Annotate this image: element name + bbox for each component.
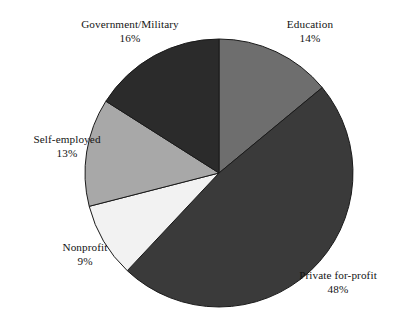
pie-label-government-military: Government/Military 16% bbox=[54, 18, 206, 45]
pie-label-self-employed-value: 13% bbox=[8, 147, 126, 161]
pie-label-private-for-profit-name: Private for-profit bbox=[272, 269, 404, 283]
pie-label-nonprofit: Nonprofit 9% bbox=[30, 241, 140, 268]
pie-label-education-value: 14% bbox=[249, 32, 371, 46]
pie-label-government-military-name: Government/Military bbox=[54, 18, 206, 32]
pie-label-private-for-profit: Private for-profit 48% bbox=[272, 269, 404, 296]
pie-label-nonprofit-value: 9% bbox=[30, 255, 140, 269]
pie-label-private-for-profit-value: 48% bbox=[272, 283, 404, 297]
pie-label-self-employed-name: Self-employed bbox=[8, 133, 126, 147]
pie-label-education: Education 14% bbox=[249, 18, 371, 45]
pie-label-nonprofit-name: Nonprofit bbox=[30, 241, 140, 255]
pie-label-government-military-value: 16% bbox=[54, 32, 206, 46]
pie-chart-figure: Government/Military 16% Education 14% Se… bbox=[0, 0, 406, 325]
pie-label-self-employed: Self-employed 13% bbox=[8, 133, 126, 160]
pie-label-education-name: Education bbox=[249, 18, 371, 32]
